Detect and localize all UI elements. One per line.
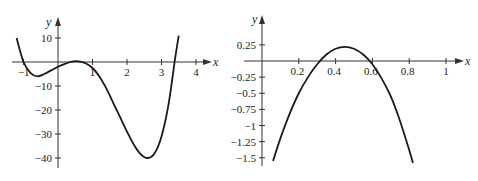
y-tick-label: −30 [35, 128, 53, 140]
x-tick-label: 2 [124, 66, 130, 78]
right-x-axis-label: x [464, 54, 471, 68]
right-x-axis-arrow-icon [455, 58, 464, 64]
x-tick-label: −1 [18, 66, 30, 78]
y-tick-label: −1.25 [231, 136, 257, 148]
right-chart: x y 0.20.40.60.81 0.25−0.25−0.5−0.75−1−1… [231, 12, 471, 166]
right-y-axis-arrow-icon [259, 15, 265, 24]
y-tick-label: −0.75 [231, 103, 257, 115]
y-tick-label: −0.5 [236, 87, 256, 99]
x-tick-label: 0.8 [401, 65, 415, 77]
x-tick-label: 1 [443, 65, 449, 77]
y-tick-label: −1.5 [236, 152, 256, 164]
x-tick-label: 4 [193, 66, 199, 78]
x-tick-label: 0.4 [327, 65, 341, 77]
y-tick-label: −0.25 [231, 71, 257, 83]
left-x-axis-arrow-icon [203, 59, 212, 65]
left-x-axis-label: x [212, 55, 219, 69]
left-chart: x y −11234 10−10−20−30−40 [12, 15, 219, 168]
left-y-axis-label: y [45, 15, 52, 29]
y-tick-label: −40 [35, 152, 53, 164]
x-tick-label: 0.2 [290, 65, 304, 77]
right-y-axis-label: y [251, 12, 258, 26]
y-tick-label: −10 [35, 80, 53, 92]
y-tick-label: −20 [35, 104, 53, 116]
right-y-ticks: 0.25−0.25−0.5−0.75−1−1.25−1.5 [231, 39, 265, 164]
x-tick-label: 3 [159, 66, 165, 78]
figure: x y −11234 10−10−20−30−40 x y 0.20.40.60… [0, 0, 478, 181]
left-y-ticks: 10−10−20−30−40 [35, 32, 61, 164]
y-tick-label: 10 [41, 32, 53, 44]
left-y-axis-arrow-icon [55, 17, 61, 26]
y-tick-label: 0.25 [237, 39, 257, 51]
y-tick-label: −1 [244, 120, 256, 132]
